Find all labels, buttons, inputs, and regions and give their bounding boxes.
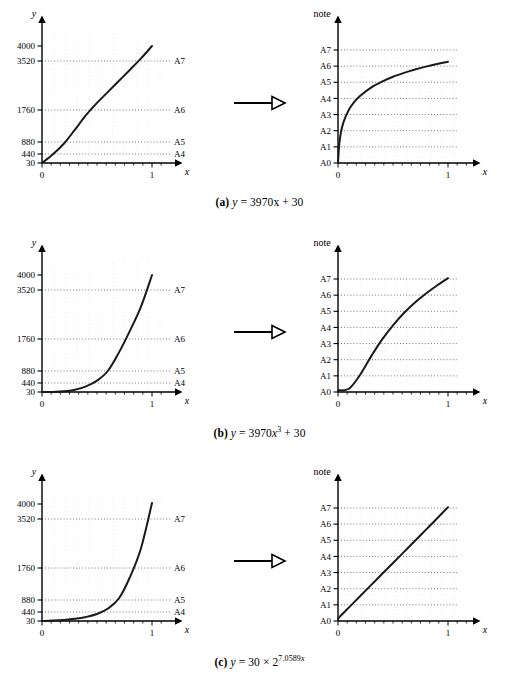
arrow-cell	[232, 546, 290, 576]
figure-caption: (b) y = 3970x3 + 30	[0, 425, 519, 439]
svg-text:0: 0	[336, 628, 341, 638]
frequency-plot: A7A6A5A44000352017608804403001yx	[0, 458, 230, 658]
curve-path	[338, 62, 448, 163]
svg-text:A7: A7	[320, 274, 331, 284]
svg-text:A3: A3	[320, 110, 331, 120]
note-plot: A7A6A5A4A3A2A1A001notex	[290, 0, 519, 200]
curve-path	[338, 507, 448, 618]
curve-path	[42, 46, 152, 163]
svg-text:A7: A7	[320, 503, 331, 513]
svg-text:A5: A5	[174, 595, 185, 605]
svg-text:1: 1	[446, 628, 451, 638]
svg-text:1: 1	[150, 170, 155, 180]
svg-text:A7: A7	[174, 285, 185, 295]
curve-path	[42, 503, 152, 621]
transform-arrow-icon	[232, 317, 290, 347]
svg-text:note: note	[313, 8, 331, 19]
svg-text:4000: 4000	[17, 270, 36, 280]
svg-text:0: 0	[40, 399, 45, 409]
figure-page: A7A6A5A44000352017608804403001yxA7A6A5A4…	[0, 0, 519, 687]
svg-text:880: 880	[22, 137, 36, 147]
svg-text:1: 1	[150, 399, 155, 409]
svg-text:A5: A5	[174, 137, 185, 147]
svg-text:880: 880	[22, 595, 36, 605]
svg-text:A1: A1	[320, 142, 331, 152]
figure-caption: (c) y = 30 × 27.0589x	[0, 654, 519, 668]
svg-text:A5: A5	[174, 366, 185, 376]
dot-grid	[350, 275, 454, 392]
svg-text:x: x	[184, 395, 190, 406]
note-gridlines	[338, 279, 457, 376]
right-panel: A7A6A5A4A3A2A1A001notex	[290, 229, 519, 429]
svg-text:A4: A4	[174, 149, 185, 159]
svg-text:A5: A5	[320, 77, 331, 87]
svg-text:A0: A0	[320, 616, 331, 626]
caption-tail: + 30	[281, 427, 305, 439]
svg-text:1: 1	[150, 628, 155, 638]
figure-row: A7A6A5A44000352017608804403001yxA7A6A5A4…	[0, 229, 519, 458]
svg-text:note: note	[313, 237, 331, 248]
note-gridlines	[42, 61, 171, 154]
svg-text:1760: 1760	[17, 105, 36, 115]
svg-text:A4: A4	[320, 323, 331, 333]
svg-text:1: 1	[446, 399, 451, 409]
svg-text:note: note	[313, 466, 331, 477]
svg-text:A4: A4	[174, 607, 185, 617]
svg-text:y: y	[31, 8, 37, 19]
svg-text:x: x	[482, 624, 488, 635]
svg-text:A2: A2	[320, 126, 331, 136]
caption-exponent: 7.0589x	[278, 654, 304, 663]
caption-label: (c)	[214, 656, 227, 668]
curve-path	[42, 275, 152, 392]
right-panel: A7A6A5A4A3A2A1A001notex	[290, 0, 519, 200]
caption-label: (a)	[216, 196, 230, 208]
svg-text:A4: A4	[320, 552, 331, 562]
svg-text:3520: 3520	[17, 514, 36, 524]
dot-grid	[54, 34, 160, 163]
figure-caption: (a) y = 3970x + 30	[0, 196, 519, 208]
svg-text:A4: A4	[320, 94, 331, 104]
left-panel: A7A6A5A44000352017608804403001yx	[0, 0, 230, 200]
caption-variable: y	[232, 196, 237, 208]
svg-text:A2: A2	[320, 355, 331, 365]
svg-text:3520: 3520	[17, 56, 36, 66]
svg-text:0: 0	[336, 170, 341, 180]
arrow-cell	[232, 317, 290, 347]
svg-text:A3: A3	[320, 568, 331, 578]
svg-text:x: x	[184, 166, 190, 177]
caption-body: 3970	[249, 427, 272, 439]
svg-text:0: 0	[40, 170, 45, 180]
transform-arrow-icon	[232, 88, 290, 118]
note-plot: A7A6A5A4A3A2A1A001notex	[290, 458, 519, 658]
svg-text:A6: A6	[320, 519, 331, 529]
caption-variable: y	[231, 427, 236, 439]
svg-text:3520: 3520	[17, 285, 36, 295]
svg-text:A3: A3	[320, 339, 331, 349]
svg-text:880: 880	[22, 366, 36, 376]
svg-text:1760: 1760	[17, 563, 36, 573]
note-plot: A7A6A5A4A3A2A1A001notex	[290, 229, 519, 429]
svg-text:30: 30	[26, 387, 36, 397]
svg-text:A6: A6	[320, 61, 331, 71]
svg-text:A7: A7	[320, 45, 331, 55]
svg-text:A4: A4	[174, 378, 185, 388]
figure-row: A7A6A5A44000352017608804403001yxA7A6A5A4…	[0, 0, 519, 229]
svg-text:A5: A5	[320, 535, 331, 545]
right-panel: A7A6A5A4A3A2A1A001notex	[290, 458, 519, 658]
figure-row: A7A6A5A44000352017608804403001yxA7A6A5A4…	[0, 458, 519, 687]
svg-text:x: x	[482, 395, 488, 406]
svg-text:0: 0	[40, 628, 45, 638]
svg-text:y: y	[31, 237, 37, 248]
figure-rows: A7A6A5A44000352017608804403001yxA7A6A5A4…	[0, 0, 519, 687]
svg-text:A2: A2	[320, 584, 331, 594]
dot-grid	[54, 492, 160, 621]
svg-text:x: x	[184, 624, 190, 635]
svg-text:30: 30	[26, 158, 36, 168]
svg-text:1760: 1760	[17, 334, 36, 344]
svg-text:A5: A5	[320, 306, 331, 316]
svg-text:A7: A7	[174, 514, 185, 524]
svg-text:A0: A0	[320, 158, 331, 168]
left-panel: A7A6A5A44000352017608804403001yx	[0, 458, 230, 658]
svg-text:A6: A6	[174, 105, 185, 115]
note-gridlines	[42, 519, 171, 612]
